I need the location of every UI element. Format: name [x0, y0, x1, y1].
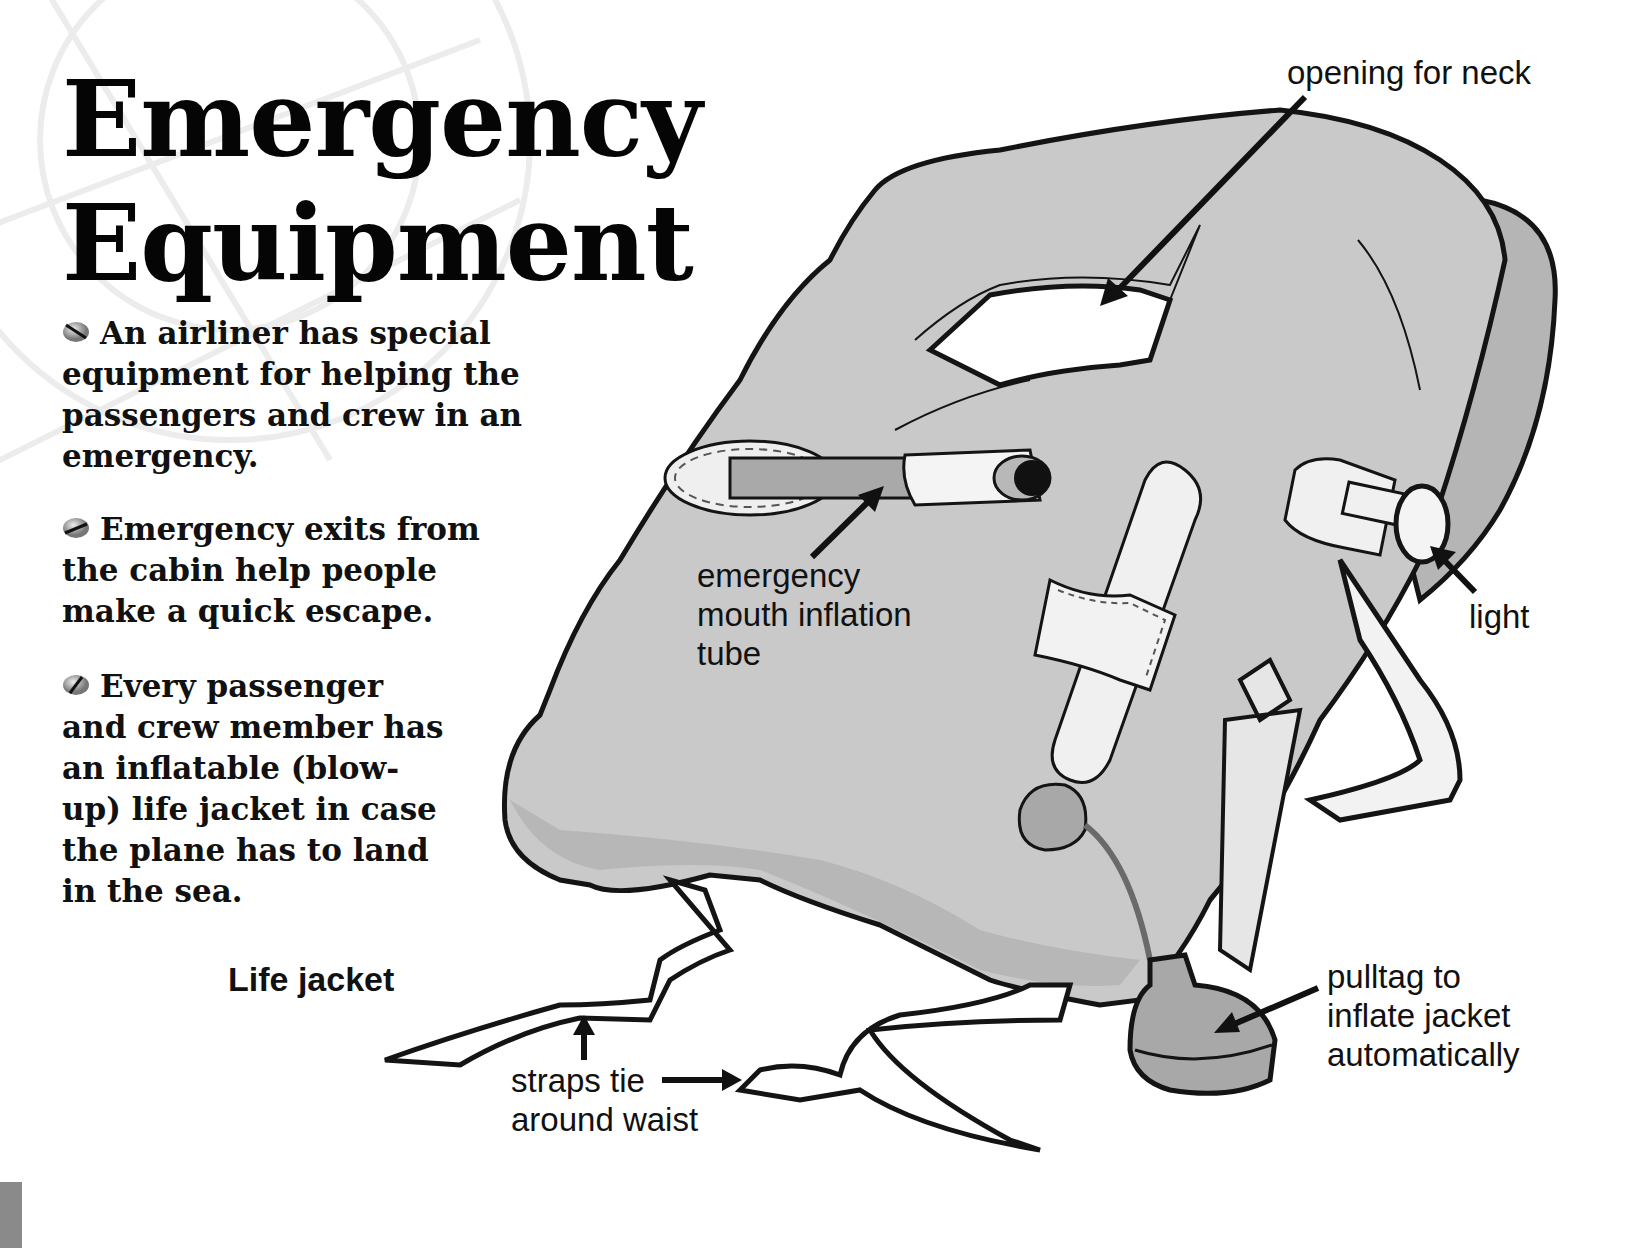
page: Emergency Equipment An airliner has spec…: [0, 0, 1647, 1248]
mouth-inflation-tube: [730, 458, 920, 498]
label-opening-for-neck: opening for neck: [1287, 53, 1531, 92]
waist-strap-left: [385, 880, 730, 1065]
waist-strap-right: [740, 985, 1070, 1150]
label-straps-tie-around-waist: straps tie around waist: [511, 1061, 698, 1139]
label-emergency-mouth-inflation-tube: emergency mouth inflation tube: [697, 556, 912, 673]
figure-caption: Life jacket: [228, 960, 394, 999]
label-pulltag: pulltag to inflate jacket automatically: [1327, 957, 1520, 1074]
pulltag: [1130, 955, 1275, 1093]
page-edge-tab: [0, 1182, 22, 1248]
jacket-body: [504, 110, 1505, 1005]
label-light: light: [1469, 597, 1530, 636]
